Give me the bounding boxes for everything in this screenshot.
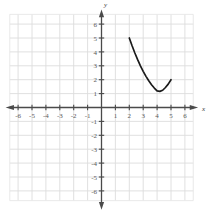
x-tick-label: -6	[15, 112, 21, 120]
y-tick-label: 1	[94, 90, 98, 98]
y-axis-label: y	[103, 1, 108, 9]
y-tick-label: 2	[94, 76, 98, 84]
y-tick-label: -2	[91, 132, 97, 140]
y-tick-label: 4	[94, 49, 98, 57]
x-tick-label: 5	[169, 112, 173, 120]
y-tick-label: 6	[94, 21, 98, 29]
y-tick-label: 5	[94, 35, 98, 43]
x-tick-label: -4	[43, 112, 49, 120]
x-tick-label: -2	[71, 112, 77, 120]
x-axis-label: x	[201, 105, 206, 113]
plotted-curve	[129, 38, 171, 91]
y-tick-label: -6	[91, 188, 97, 196]
axes	[6, 10, 199, 210]
x-tick-label: 4	[155, 112, 159, 120]
x-tick-label: 6	[183, 112, 187, 120]
x-tick-label: -5	[29, 112, 35, 120]
coordinate-plane-chart: -6-5-4-3-2-1123456-6-5-4-3-2-1123456 x y	[0, 0, 207, 218]
y-tick-label: -1	[91, 118, 97, 126]
y-tick-label: -3	[91, 146, 97, 154]
x-tick-label: 1	[114, 112, 118, 120]
x-tick-label: -3	[57, 112, 63, 120]
y-tick-label: 3	[94, 62, 98, 70]
curve-path	[129, 38, 171, 91]
y-tick-label: -5	[91, 174, 97, 182]
x-tick-label: 3	[141, 112, 145, 120]
x-tick-label: -1	[85, 112, 91, 120]
x-tick-label: 2	[128, 112, 132, 120]
y-tick-label: -4	[91, 160, 97, 168]
